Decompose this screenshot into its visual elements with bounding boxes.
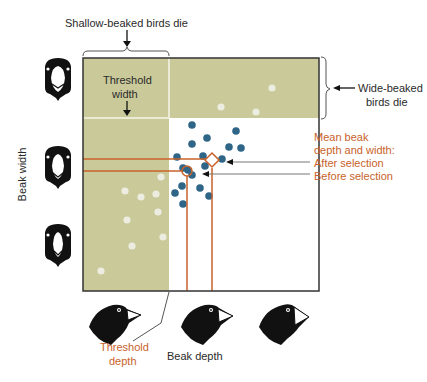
- dead-dot: [252, 108, 259, 115]
- surviving-dot: [188, 121, 196, 129]
- dead-dot: [159, 233, 166, 240]
- wide-die-arrowhead: [333, 85, 340, 91]
- after-selection-label: After selection: [314, 157, 384, 170]
- dead-dot: [137, 193, 144, 200]
- surviving-dot: [179, 200, 187, 208]
- surviving-dot: [196, 184, 204, 192]
- surviving-dot: [171, 189, 179, 197]
- after-selection-arrowhead: [226, 159, 233, 165]
- surviving-dot: [232, 127, 240, 135]
- shallow-die-bracket: [83, 47, 169, 56]
- dead-dot: [157, 173, 164, 180]
- surviving-dot: [237, 144, 245, 152]
- dead-dot: [268, 84, 275, 91]
- beak-width-axis-label: Beak width: [16, 148, 29, 202]
- shallow-beaked-die-label: Shallow-beaked birds die: [65, 17, 188, 30]
- beak-selection-diagram: [0, 0, 427, 382]
- surviving-dot: [203, 134, 211, 142]
- threshold-depth-label-line1: Threshold: [100, 341, 149, 354]
- threshold-width-label-line1: Threshold: [103, 74, 152, 87]
- wide-beaked-die-label-line2: birds die: [366, 96, 408, 109]
- narrow-beak-head-icon: [45, 58, 71, 101]
- dead-dot: [123, 216, 130, 223]
- dead-dot: [154, 208, 161, 215]
- shallow-die-arrowhead: [123, 41, 131, 47]
- surviving-dot: [225, 143, 233, 151]
- wide-beak-head-icon: [45, 224, 71, 267]
- before-selection-arrowhead: [202, 171, 209, 177]
- deep-beak-side-head-icon: [259, 304, 309, 345]
- surviving-dot: [188, 140, 196, 148]
- surviving-dot: [178, 182, 186, 190]
- shallow-beak-side-head-icon: [89, 305, 141, 345]
- medium-beak-side-head-icon: [181, 305, 233, 345]
- dead-dot: [152, 190, 159, 197]
- threshold-depth-label-line2: depth: [109, 355, 137, 368]
- wide-die-bracket: [321, 57, 330, 119]
- dead-dot: [121, 187, 128, 194]
- medium-beak-head-icon: [45, 146, 71, 189]
- surviving-dot: [218, 155, 226, 163]
- threshold-width-label-line2: width: [112, 88, 138, 101]
- mean-beak-label-line1: Mean beak: [314, 131, 368, 144]
- wide-beaked-die-label-line1: Wide-beaked: [358, 82, 423, 95]
- beak-depth-axis-label: Beak depth: [167, 350, 223, 363]
- surviving-bird-dots: [171, 121, 245, 208]
- dead-dot: [97, 267, 104, 274]
- mean-beak-label-line2: depth and width:: [314, 144, 395, 157]
- before-selection-label: Before selection: [314, 170, 393, 183]
- dead-dot: [128, 242, 135, 249]
- dead-dot: [217, 103, 224, 110]
